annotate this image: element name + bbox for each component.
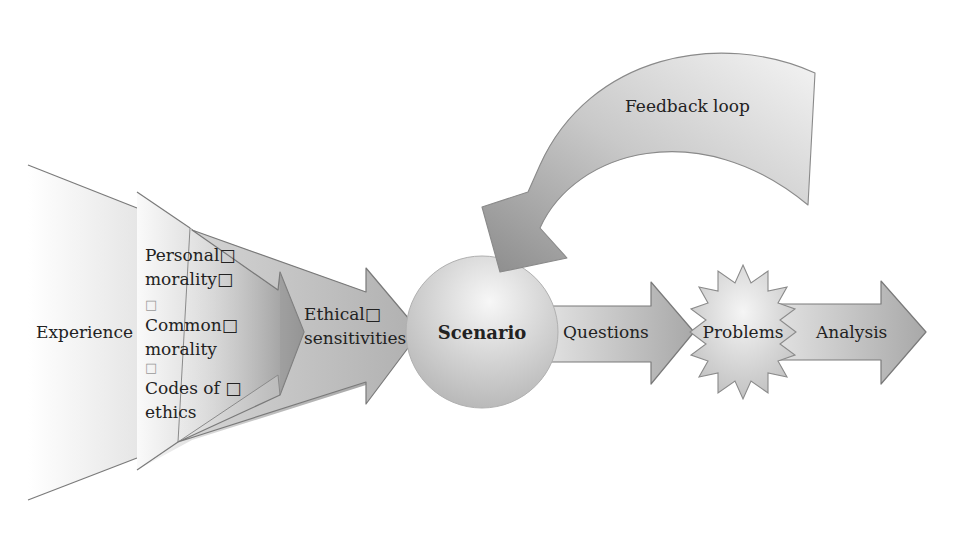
scenario-label: Scenario xyxy=(438,322,527,343)
input-line-1: Personal□ xyxy=(145,245,235,265)
scenario-sphere: Scenario xyxy=(406,256,558,408)
input-line-5: morality xyxy=(145,339,217,359)
ethical-line-2: sensitivities xyxy=(304,328,406,348)
questions-label: Questions xyxy=(563,322,649,342)
problems-starburst: Problems xyxy=(690,265,796,399)
ethics-process-diagram: Experience Personal□ morality□ □ Common□… xyxy=(0,0,957,535)
problems-label: Problems xyxy=(702,322,783,342)
moral-inputs-labels: Personal□ morality□ □ Common□ morality □… xyxy=(145,245,241,422)
input-line-6: □ xyxy=(145,360,157,375)
experience-funnel: Experience xyxy=(28,165,137,500)
feedback-loop-label: Feedback loop xyxy=(625,96,750,116)
ethical-line-1: Ethical□ xyxy=(304,304,381,324)
input-line-8: ethics xyxy=(145,402,197,422)
analysis-label: Analysis xyxy=(815,322,887,342)
input-line-2: morality□ xyxy=(145,269,233,289)
input-line-4: Common□ xyxy=(145,315,238,335)
experience-label: Experience xyxy=(36,322,133,342)
feedback-loop-arrow: Feedback loop xyxy=(482,53,815,272)
input-line-3: □ xyxy=(145,297,157,312)
input-line-7: Codes of □ xyxy=(145,378,241,398)
